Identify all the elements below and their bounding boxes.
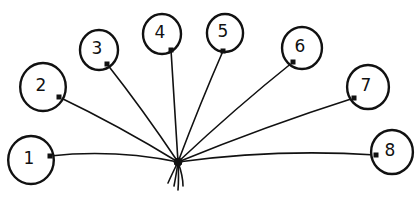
balloon-3: 3 — [80, 30, 118, 70]
balloon-label: 7 — [361, 75, 372, 95]
balloon-tie — [291, 60, 296, 65]
balloon-label: 6 — [295, 36, 306, 56]
balloon-tie — [57, 95, 62, 100]
balloon-tie — [352, 96, 357, 101]
balloon-2: 2 — [20, 63, 66, 111]
balloon-string-5 — [178, 51, 223, 162]
balloon-label: 3 — [92, 38, 103, 58]
balloon-tie — [48, 154, 53, 159]
balloon-diagram: 12345678 — [0, 0, 419, 199]
balloon-string-8 — [178, 153, 376, 162]
balloon-5: 5 — [207, 14, 243, 54]
balloon-string-3 — [107, 64, 178, 162]
balloon-string-6 — [178, 62, 293, 162]
balloon-7: 7 — [347, 65, 389, 109]
balloon-tie — [169, 48, 174, 53]
balloon-tie — [105, 62, 110, 67]
knot — [174, 158, 182, 166]
balloon-1: 1 — [8, 136, 54, 184]
balloon-tie — [374, 153, 379, 158]
balloon-6: 6 — [282, 27, 322, 69]
balloon-label: 1 — [24, 148, 35, 168]
balloon-4: 4 — [143, 14, 181, 54]
knot-tails — [168, 162, 183, 190]
balloon-label: 2 — [36, 75, 47, 95]
balloon-string-2 — [59, 97, 178, 162]
balloon-tie — [221, 49, 226, 54]
balloon-string-4 — [171, 50, 178, 162]
balloon-string-1 — [50, 154, 178, 162]
balloon-label: 4 — [155, 22, 166, 42]
balloon-8: 8 — [371, 130, 413, 174]
balloon-label: 5 — [218, 21, 229, 41]
balloon-label: 8 — [385, 140, 396, 160]
